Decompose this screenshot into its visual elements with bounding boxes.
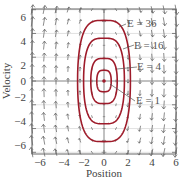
y-tick-label: −6 [14, 139, 26, 151]
equilibrium-point [102, 79, 106, 83]
y-tick-label: 2 [21, 59, 27, 71]
x-tick-label: −6 [34, 156, 46, 168]
energy-labels: E = 36 E = 16 E = 4 E = 1 [110, 17, 164, 106]
x-tick-label: 2 [125, 156, 131, 168]
x-tick-label: 6 [173, 156, 179, 168]
energy-label-4: E = 4 [137, 60, 161, 72]
y-tick-label: 4 [21, 35, 27, 47]
phase-portrait-chart: 6 4 2 0 −2 −4 −6 −6 −4 −2 0 2 4 6 Positi… [0, 0, 186, 185]
x-axis-title: Position [86, 167, 123, 179]
y-tick-label: 6 [21, 11, 27, 23]
x-tick-label: −4 [58, 156, 70, 168]
y-axis-title: Velocity [0, 62, 12, 99]
y-tick-label: 0 [21, 75, 27, 87]
y-tick-label: −4 [14, 115, 26, 127]
energy-label-1: E = 1 [136, 94, 160, 106]
x-tick-label: 4 [149, 156, 155, 168]
y-tick-label: −2 [14, 91, 26, 103]
energy-label-36: E = 36 [127, 17, 157, 29]
energy-label-16: E = 16 [134, 39, 164, 51]
